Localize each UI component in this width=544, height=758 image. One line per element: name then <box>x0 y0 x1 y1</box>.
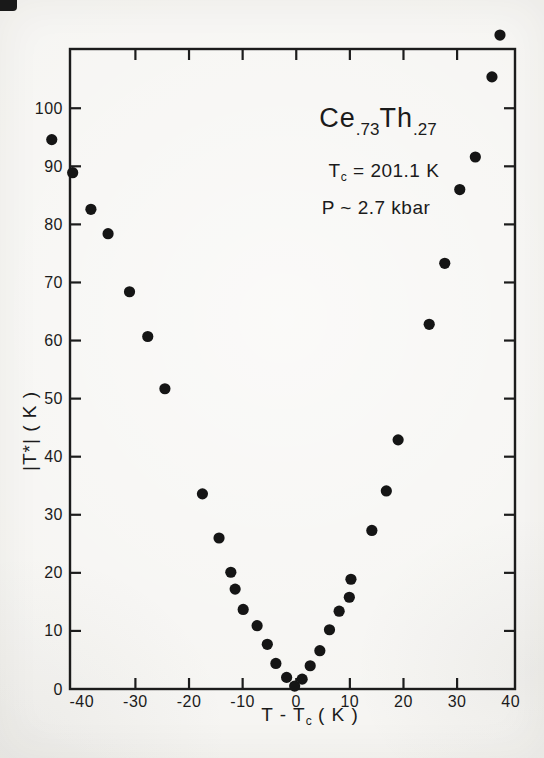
data-point <box>470 151 481 162</box>
annotation-critical-temperature: Tc = 201.1 K <box>329 160 440 184</box>
x-tick-label: -10 <box>230 693 255 710</box>
x-tick-label: 40 <box>501 693 520 710</box>
data-point <box>213 532 224 543</box>
title-element-1: Ce <box>319 103 356 133</box>
y-tick-label: 80 <box>44 216 63 233</box>
data-point <box>281 672 292 683</box>
data-point <box>381 485 392 496</box>
y-tick-label: 0 <box>54 681 63 698</box>
y-tick-label: 10 <box>44 622 63 639</box>
data-point <box>252 620 263 631</box>
x-tick-label: -30 <box>123 693 148 710</box>
data-point <box>124 286 135 297</box>
data-point <box>159 383 170 394</box>
annotation-pressure: P ~ 2.7 kbar <box>322 197 431 219</box>
data-point <box>238 604 249 615</box>
data-point <box>230 584 241 595</box>
scanned-figure-page: -40-30-20-100102030400102030405060708090… <box>0 0 544 758</box>
y-tick-label: 50 <box>44 390 63 407</box>
data-point <box>393 434 404 445</box>
data-point <box>439 258 450 269</box>
data-point <box>314 645 325 656</box>
pressure-text: P ~ 2.7 kbar <box>322 197 431 218</box>
x-tick-label: 30 <box>448 693 467 710</box>
title-subscript-1: .73 <box>356 120 380 139</box>
data-point <box>324 624 335 635</box>
data-point <box>225 567 236 578</box>
data-point <box>270 658 281 669</box>
y-tick-label: 70 <box>44 274 63 291</box>
scatter-plot: -40-30-20-100102030400102030405060708090… <box>0 0 544 758</box>
data-point <box>344 592 355 603</box>
y-tick-label: 30 <box>44 506 63 523</box>
y-tick-label: 90 <box>44 158 63 175</box>
data-point <box>85 204 96 215</box>
y-tick-label: 60 <box>44 332 63 349</box>
data-point <box>345 574 356 585</box>
x-tick-label: 20 <box>394 693 413 710</box>
data-point <box>142 331 153 342</box>
data-point <box>262 639 273 650</box>
y-axis-label-text: |T*| ( K ) <box>19 391 40 471</box>
x-tick-label: -20 <box>177 693 202 710</box>
y-tick-label: 40 <box>44 448 63 465</box>
data-point <box>454 184 465 195</box>
title-subscript-2: .27 <box>413 120 437 139</box>
data-point <box>486 71 497 82</box>
data-point <box>366 525 377 536</box>
y-tick-label: 20 <box>44 564 63 581</box>
data-point <box>102 228 113 239</box>
x-tick-label: -40 <box>69 693 94 710</box>
data-point <box>297 674 308 685</box>
x-axis-label-pre: T - T <box>261 704 305 725</box>
data-point <box>424 319 435 330</box>
data-point <box>494 29 505 40</box>
tc-symbol: T <box>329 160 341 181</box>
y-tick-label: 100 <box>35 100 63 117</box>
chart-title-compound: Ce.73Th.27 <box>319 103 436 140</box>
data-point <box>46 134 57 145</box>
data-point <box>334 606 345 617</box>
data-point <box>305 660 316 671</box>
tc-value: = 201.1 K <box>347 160 439 181</box>
y-axis-label: |T*| ( K ) <box>19 391 41 471</box>
x-axis-label: T - Tc ( K ) <box>261 704 359 728</box>
plot-frame <box>70 49 515 689</box>
title-element-2: Th <box>380 103 414 133</box>
data-point <box>197 488 208 499</box>
x-axis-label-post: ( K ) <box>312 704 359 725</box>
data-point <box>67 167 78 178</box>
